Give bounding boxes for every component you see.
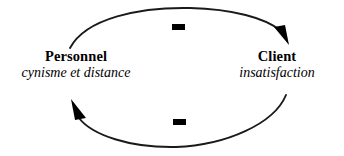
polarity-marker-bottom: [171, 119, 187, 125]
arrowhead-to-client: [274, 25, 289, 45]
node-personnel-title: Personnel: [0, 49, 152, 64]
node-personnel-subtitle: cynisme et distance: [0, 66, 152, 80]
arrowhead-to-personnel: [71, 99, 86, 120]
node-client-subtitle: insatisfaction: [210, 66, 344, 80]
polarity-marker-top: [170, 24, 186, 30]
minus-icon-bottom: [173, 119, 186, 125]
node-client-title: Client: [210, 49, 344, 64]
minus-icon-top: [172, 24, 185, 30]
node-client: Client insatisfaction: [210, 49, 344, 80]
causal-loop-diagram: Personnel cynisme et distance Client ins…: [0, 0, 344, 156]
node-personnel: Personnel cynisme et distance: [0, 49, 152, 80]
